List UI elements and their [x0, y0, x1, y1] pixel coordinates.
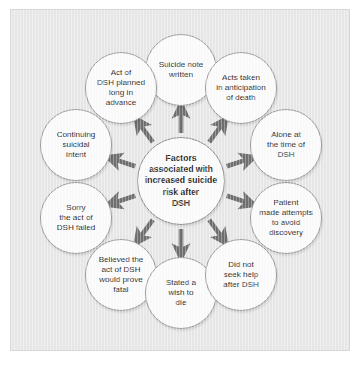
- node-label: Act of DSH planned long in advance: [93, 68, 149, 107]
- node-label: Acts taken in anticipation of death: [212, 73, 270, 103]
- node-sorry-act-of-dsh-failed[interactable]: Sorry the act of DSH failed: [40, 182, 112, 254]
- node-attempts-to-avoid-discovery[interactable]: Patient made attempts to avoid discovery: [250, 182, 322, 254]
- node-continuing-suicidal-intent[interactable]: Continuing suicidal intent: [40, 109, 112, 181]
- node-label: Suicide note written: [155, 60, 208, 80]
- node-label: Sorry the act of DSH failed: [53, 203, 100, 233]
- node-label: Patient made attempts to avoid discovery: [255, 198, 317, 237]
- node-label: Stated a wish to die: [162, 278, 200, 308]
- diagram-panel: Suicide note written Act of DSH planned …: [10, 9, 350, 351]
- arrow-to-attempts-to-avoid-discovery: [227, 196, 256, 205]
- node-label: Continuing suicidal intent: [53, 130, 100, 160]
- node-center-hub[interactable]: Factors associated with increased suicid…: [137, 137, 225, 225]
- arrow-to-sorry-act-of-dsh-failed: [107, 196, 136, 205]
- node-acts-taken-in-anticipation[interactable]: Acts taken in anticipation of death: [205, 52, 277, 124]
- arrow-to-believed-would-prove-fatal: [135, 220, 153, 244]
- node-label: Alone at the time of DSH: [263, 130, 309, 160]
- arrow-to-acts-taken-in-anticipation: [209, 118, 227, 142]
- node-alone-at-time-of-dsh[interactable]: Alone at the time of DSH: [250, 109, 322, 181]
- node-did-not-seek-help[interactable]: Did not seek help after DSH: [205, 239, 277, 311]
- arrow-to-did-not-seek-help: [209, 220, 227, 244]
- arrow-to-continuing-suicidal-intent: [107, 157, 136, 166]
- node-label: Did not seek help after DSH: [219, 260, 263, 290]
- node-dsh-planned-long-in-advance[interactable]: Act of DSH planned long in advance: [85, 52, 157, 124]
- node-label: Believed the act of DSH would prove fata…: [95, 255, 148, 294]
- center-hub-label: Factors associated with increased suicid…: [141, 153, 221, 209]
- arrow-to-dsh-planned-long-in-advance: [135, 118, 153, 142]
- arrow-to-alone-at-time-of-dsh: [227, 157, 256, 166]
